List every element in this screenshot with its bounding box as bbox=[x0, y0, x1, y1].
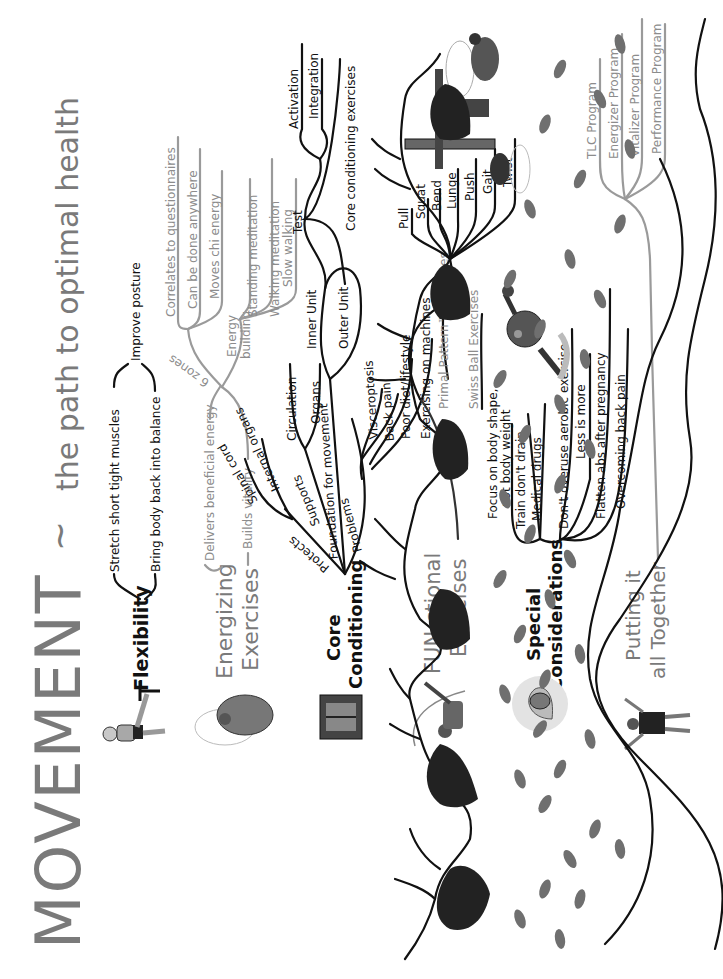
branch-label-energizing-2: Exercises bbox=[238, 568, 263, 671]
leaf-can-be-done-anywhere: Can be done anywhere bbox=[186, 170, 200, 309]
leaf-energizer-program: Energizer Program bbox=[607, 48, 621, 159]
lobe-5 bbox=[430, 264, 470, 320]
leaf-core-conditioning-exercises: Core conditioning exercises bbox=[344, 66, 358, 231]
leaf-improve-posture: Improve posture bbox=[129, 262, 143, 361]
branch-label-special-2: Considerations bbox=[545, 539, 566, 691]
leaf-outer-unit: Outer Unit bbox=[337, 286, 351, 349]
leaf-delivers-beneficial-energy: Delivers beneficial energy bbox=[203, 404, 217, 561]
branch-energizing: Energizing Exercises Delivers beneficial… bbox=[164, 137, 296, 679]
leaf-circulation: Circulation bbox=[285, 377, 299, 441]
lobe-4 bbox=[433, 419, 469, 480]
leaf-overcoming-back-pain: Overcoming back pain bbox=[614, 374, 628, 509]
leaf-train-dont-drain: Train don't drain bbox=[514, 431, 528, 530]
leaf-focus-on-body-shape-1: Focus on body shape, bbox=[486, 389, 500, 519]
leaf-activation: Activation bbox=[287, 69, 301, 129]
branch-flexibility: Flexibility Stretch short tight muscles … bbox=[108, 262, 163, 691]
page-subtitle: the path to optimal health bbox=[50, 97, 85, 491]
leaf-stretch-short-tight-muscles: Stretch short tight muscles bbox=[108, 409, 122, 572]
core-torso-figure bbox=[320, 695, 362, 739]
branch-label-energizing-1: Energizing bbox=[212, 563, 237, 679]
leaf-organs: Organs bbox=[309, 381, 323, 424]
leaf-bend: Bend bbox=[430, 180, 444, 211]
leaf-visceroptosis: Visceroptosis bbox=[362, 360, 381, 440]
leaf-medical-drugs: Medical drugs bbox=[530, 437, 544, 521]
leaf-flatten-abs-after-pregnancy: Flatten abs after pregnancy bbox=[594, 352, 608, 519]
branch-label-putting-2: all Together bbox=[646, 561, 670, 679]
leaf-lunge: Lunge bbox=[445, 172, 459, 209]
leaf-inner-unit: Inner Unit bbox=[305, 289, 319, 349]
title-tilde: ~ bbox=[39, 521, 80, 551]
page-title: MOVEMENT bbox=[22, 573, 95, 949]
lobe-2 bbox=[427, 744, 478, 807]
header: MOVEMENT ~ the path to optimal health bbox=[22, 97, 95, 949]
branch-label-flexibility: Flexibility bbox=[130, 585, 152, 691]
mind-map-canvas: MOVEMENT ~ the path to optimal health Fl… bbox=[0, 0, 723, 979]
leaf-walking-meditation: Walking meditation bbox=[268, 201, 282, 317]
standing-figure bbox=[625, 699, 690, 749]
functional-cable-figure bbox=[413, 683, 465, 746]
branch-label-putting-1: Putting it bbox=[621, 570, 645, 661]
sub-energy-building-1: Energy bbox=[225, 315, 239, 357]
lobe-6 bbox=[430, 84, 470, 140]
leaf-performance-program: Performance Program bbox=[650, 24, 664, 155]
branch-label-special-1: Special bbox=[523, 588, 544, 661]
sub-6-zones: 6 zones bbox=[166, 352, 212, 390]
leaf-back-pain: Back pain bbox=[379, 382, 397, 442]
leaf-moves-chi-energy: Moves chi energy bbox=[208, 194, 222, 299]
energizing-exercise-figure bbox=[195, 695, 273, 745]
leaf-push: Push bbox=[463, 173, 477, 202]
branch-label-core-1: Core bbox=[323, 614, 344, 661]
branch-label-core-2: Conditioning bbox=[345, 560, 366, 689]
leaf-bring-body-back-into-balance: Bring body back into balance bbox=[149, 397, 163, 572]
leaf-test: Test bbox=[291, 210, 305, 235]
leaf-standing-meditation: Standing meditation bbox=[246, 195, 260, 317]
leaf-pull: Pull bbox=[397, 208, 411, 229]
leaf-correlates-to-questionnaires: Correlates to questionnaires bbox=[164, 147, 178, 317]
leaf-integration: Integration bbox=[307, 53, 321, 119]
